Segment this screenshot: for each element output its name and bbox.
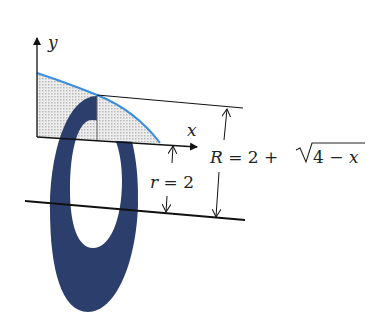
- outer-radius-label: R = 2 +: [209, 147, 278, 167]
- inner-radius-arrow-down: [166, 196, 167, 212]
- outer-radius-arrow-down: [216, 172, 219, 217]
- outer-radius-arrow-up: [224, 109, 227, 140]
- inner-radius-label: r = 2: [150, 172, 194, 192]
- inner-radius-arrow-up: [172, 146, 173, 163]
- washer-diagram: y x r = 2 R = 2 + 4 − x: [0, 0, 387, 336]
- x-axis-label: x: [187, 120, 197, 140]
- y-axis-label: y: [47, 32, 58, 52]
- shaded-region-front: [97, 95, 160, 143]
- outer-radius-radicand: 4 − x: [313, 147, 359, 167]
